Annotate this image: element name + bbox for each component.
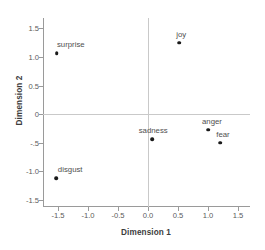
x-tick-label: -1.5	[51, 211, 64, 220]
data-point[interactable]	[218, 141, 222, 145]
x-axis-title: Dimension 1	[42, 228, 250, 237]
y-tick-label: -1.5	[26, 196, 39, 205]
data-point-label: disgust	[58, 165, 83, 174]
y-tick-mark	[39, 28, 43, 29]
x-tick-label: 0.0	[143, 211, 154, 220]
y-tick-mark	[39, 171, 43, 172]
x-tick-label: -1.0	[81, 211, 94, 220]
data-point[interactable]	[54, 177, 58, 181]
data-point-label: anger	[202, 117, 222, 126]
y-tick-mark	[39, 86, 43, 87]
y-tick-label: 1.0	[28, 52, 39, 61]
data-point[interactable]	[177, 41, 181, 45]
y-tick-label: -1.0	[26, 167, 39, 176]
data-point-label: surprise	[57, 40, 85, 49]
data-point-label: sadness	[139, 126, 168, 135]
plot-area: 1.51.00.50-.5-1.0-1.5 -1.5-1.0-0.50.00.5…	[43, 18, 250, 207]
y-tick-mark	[39, 143, 43, 144]
x-tick-label: 0.5	[173, 211, 184, 220]
y-tick-mark	[39, 57, 43, 58]
y-axis-title: Dimension 2	[15, 46, 24, 156]
x-tick-label: -0.5	[111, 211, 124, 220]
scatter-plot-figure: Dimension 2 Dimension 1 1.51.00.50-.5-1.…	[0, 0, 265, 250]
vertical-zero-line	[148, 18, 149, 207]
data-point-label: fear	[216, 130, 229, 139]
x-tick-label: 1.5	[233, 211, 244, 220]
data-point-label: joy	[176, 30, 186, 39]
x-tick-label: 1.0	[203, 211, 214, 220]
y-tick-label: -.5	[30, 138, 39, 147]
data-point[interactable]	[150, 138, 154, 142]
y-tick-label: 1.5	[28, 24, 39, 33]
y-tick-mark	[39, 200, 43, 201]
horizontal-zero-line	[43, 114, 250, 115]
x-axis-spine	[43, 206, 250, 207]
data-point[interactable]	[206, 128, 210, 132]
data-point[interactable]	[55, 51, 59, 55]
y-tick-label: 0.5	[28, 81, 39, 90]
y-tick-mark	[39, 114, 43, 115]
y-tick-label: 0	[35, 110, 39, 119]
y-axis-spine	[43, 18, 44, 207]
